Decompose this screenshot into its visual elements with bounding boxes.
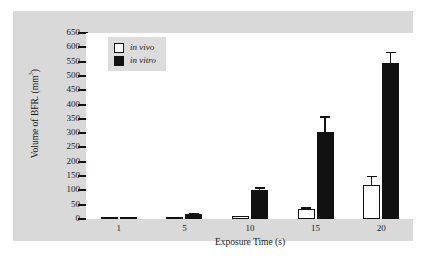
legend-label-in-vitro: in vitro xyxy=(130,56,156,65)
x-axis-tick-label: 10 xyxy=(230,223,270,233)
y-axis-tick-label: 50 xyxy=(42,200,80,209)
error-bar-cap xyxy=(386,52,396,54)
error-bar-cap xyxy=(189,213,199,215)
y-axis-tick-label: 150 xyxy=(42,171,80,180)
error-bar-cap xyxy=(255,187,265,189)
y-axis-tick-label: 0 xyxy=(42,214,80,223)
bar-in-vivo-20 xyxy=(363,185,380,219)
x-axis-label: Exposure Time (s) xyxy=(86,237,414,247)
y-axis-tick-value: 50 xyxy=(46,200,80,209)
legend-swatch-filled-square-icon xyxy=(114,56,124,66)
error-bar-line xyxy=(390,52,392,63)
y-axis-tick-label: 400 xyxy=(42,100,80,109)
y-axis-tick-label: 450 xyxy=(42,85,80,94)
x-axis-tick-label: 1 xyxy=(99,223,139,233)
error-bar-cap xyxy=(367,176,377,178)
y-axis-tick-label: 100 xyxy=(42,185,80,194)
y-axis-tick-value: 100 xyxy=(46,185,80,194)
bar-in-vivo-15 xyxy=(298,209,315,219)
y-axis-tick-value: 550 xyxy=(46,57,80,66)
y-axis-label-text: Volume of BFR. (mm xyxy=(30,75,40,158)
y-axis-tick-value: 350 xyxy=(46,114,80,123)
legend-item-in-vivo: in vivo xyxy=(114,41,156,54)
y-axis-tick-label: 300 xyxy=(42,128,80,137)
chart-legend: in vivo in vitro xyxy=(108,37,166,71)
bar-in-vivo-1 xyxy=(101,217,118,219)
y-axis-tick-value: 500 xyxy=(46,71,80,80)
bar-in-vivo-5 xyxy=(166,217,183,219)
y-axis-tick-value: 650 xyxy=(46,28,80,37)
bar-in-vitro-15 xyxy=(317,132,334,219)
y-axis-tick-value: 250 xyxy=(46,142,80,151)
y-axis-tick-value: 200 xyxy=(46,157,80,166)
y-axis-tick-value: 0 xyxy=(46,214,80,223)
y-axis-label-exponent: 3 xyxy=(27,72,34,75)
y-axis-tick-label: 600 xyxy=(42,42,80,51)
error-bar-cap xyxy=(236,216,246,218)
x-axis-tick-label: 5 xyxy=(164,223,204,233)
y-axis-tick-value: 600 xyxy=(46,42,80,51)
bar-in-vitro-10 xyxy=(251,190,268,219)
error-bar-cap xyxy=(320,116,330,118)
legend-label-in-vivo: in vivo xyxy=(130,43,154,52)
error-bar-line xyxy=(324,116,326,132)
y-axis-tick-label: 550 xyxy=(42,57,80,66)
y-axis-tick-label: 500 xyxy=(42,71,80,80)
bar-in-vitro-20 xyxy=(382,63,399,219)
y-axis-tick-label: 250 xyxy=(42,142,80,151)
y-axis-tick-label: 200 xyxy=(42,157,80,166)
y-axis-label: Volume of BFR. (mm3) xyxy=(26,34,39,194)
y-axis-tick-value: 400 xyxy=(46,100,80,109)
error-bar-cap xyxy=(301,207,311,209)
y-axis-tick-label: 650 xyxy=(42,28,80,37)
y-axis-tick-label: 350 xyxy=(42,114,80,123)
error-bar-cap xyxy=(123,217,133,219)
figure-panel: 050100150200250300350400450500550600650 … xyxy=(13,11,413,241)
y-axis-tick-value: 150 xyxy=(46,171,80,180)
legend-item-in-vitro: in vitro xyxy=(114,54,156,67)
y-axis-label-close: ) xyxy=(30,69,40,72)
y-axis-tick-value: 300 xyxy=(46,128,80,137)
x-axis-tick-label: 20 xyxy=(361,223,401,233)
figure-canvas: 050100150200250300350400450500550600650 … xyxy=(0,0,426,257)
x-axis-tick-label: 15 xyxy=(296,223,336,233)
y-axis-tick-value: 450 xyxy=(46,85,80,94)
legend-swatch-open-square-icon xyxy=(114,43,124,53)
